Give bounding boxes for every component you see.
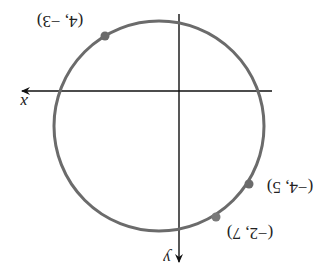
point-label-neg2-7: (−2, 7) bbox=[227, 224, 273, 243]
circle bbox=[54, 21, 264, 231]
coordinate-diagram: (4, −3) (−4, 5) (−2, 7) x y bbox=[0, 0, 330, 280]
x-axis-label: x bbox=[20, 93, 29, 112]
point-neg2-7 bbox=[212, 213, 221, 222]
point-4-neg3 bbox=[101, 32, 110, 41]
point-label-neg4-5: (−4, 5) bbox=[267, 178, 313, 197]
y-axis-label: y bbox=[163, 249, 173, 268]
point-label-4-neg3: (4, −3) bbox=[37, 12, 83, 31]
point-neg4-5 bbox=[245, 180, 254, 189]
